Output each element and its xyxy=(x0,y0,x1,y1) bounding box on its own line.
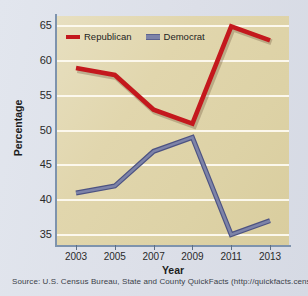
legend-label-democrat: Democrat xyxy=(164,31,205,42)
x-tick-mark xyxy=(192,245,193,250)
y-axis-tick-labels: 35404550556065 xyxy=(0,0,52,296)
gridline xyxy=(57,164,289,166)
x-tick-label: 2005 xyxy=(95,251,135,262)
gridline xyxy=(57,60,289,62)
x-tick-label: 2009 xyxy=(172,251,212,262)
chart-figure: 35404550556065 200320052007200920112013 … xyxy=(0,0,308,296)
x-tick-label: 2013 xyxy=(250,251,290,262)
x-tick-mark xyxy=(76,245,77,250)
x-tick-label: 2011 xyxy=(211,251,251,262)
x-axis-title: Year xyxy=(57,264,289,276)
source-note: Source: U.S. Census Bureau, State and Co… xyxy=(12,277,308,286)
x-tick-mark xyxy=(154,245,155,250)
legend-label-republican: Republican xyxy=(84,31,132,42)
legend-item-republican: Republican xyxy=(66,31,132,42)
legend-swatch-republican-icon xyxy=(66,35,80,39)
y-tick-label: 65 xyxy=(6,19,52,31)
x-tick-mark xyxy=(115,245,116,250)
chart-legend: Republican Democrat xyxy=(66,31,205,42)
gridline xyxy=(57,95,289,97)
x-tick-label: 2003 xyxy=(56,251,96,262)
gridline xyxy=(57,199,289,201)
legend-swatch-democrat-icon xyxy=(146,34,160,40)
gridline xyxy=(57,234,289,236)
y-tick-label: 60 xyxy=(6,54,52,66)
gridline xyxy=(57,25,289,27)
x-axis-line xyxy=(55,245,291,247)
y-axis-line xyxy=(55,14,57,247)
y-tick-label: 35 xyxy=(6,228,52,240)
y-axis-title: Percentage xyxy=(12,88,24,168)
gridline xyxy=(57,130,289,132)
x-tick-mark xyxy=(270,245,271,250)
x-tick-label: 2007 xyxy=(134,251,174,262)
legend-item-democrat: Democrat xyxy=(146,31,205,42)
x-tick-mark xyxy=(231,245,232,250)
y-tick-label: 40 xyxy=(6,193,52,205)
